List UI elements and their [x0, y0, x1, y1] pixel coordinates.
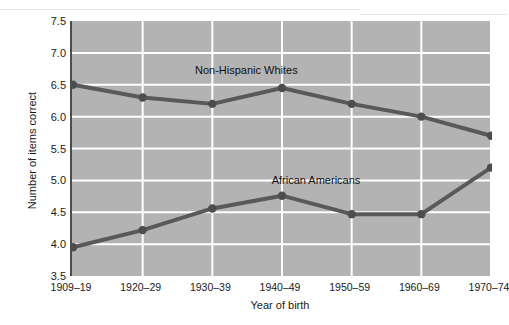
series-label-2: African Americans	[272, 174, 361, 186]
data-point-marker	[347, 210, 355, 218]
x-axis-tick-label: 1970–74	[469, 280, 509, 294]
scan-artifact-line	[360, 14, 508, 15]
series-label-1: Non-Hispanic Whites	[195, 64, 298, 76]
y-axis-tick-label: 7.0	[38, 47, 66, 59]
y-axis-tick-label: 5.5	[38, 143, 66, 155]
data-point-marker	[347, 100, 355, 108]
data-point-marker	[138, 93, 146, 101]
plot-area	[70, 21, 492, 276]
x-axis-tick-label: 1920–29	[120, 280, 161, 294]
x-axis-tick-label: 1950–59	[329, 280, 370, 294]
y-axis-tick-label: 5.0	[38, 174, 66, 186]
plot-svg	[72, 21, 492, 276]
x-axis-title: Year of birth	[70, 299, 490, 311]
x-axis-tick-label: 1940–49	[260, 280, 301, 294]
y-axis-tick-label: 6.0	[38, 111, 66, 123]
x-axis-tick-labels: 1909–191920–291930–391940–491950–591960–…	[0, 280, 508, 296]
data-point-marker	[208, 204, 216, 212]
data-point-marker	[417, 112, 425, 120]
gridlines	[72, 21, 492, 276]
data-point-marker	[138, 226, 146, 234]
y-axis-tick-label: 4.5	[38, 206, 66, 218]
data-point-marker	[72, 81, 77, 89]
data-point-marker	[278, 191, 286, 199]
x-axis-tick-label: 1960–69	[399, 280, 440, 294]
data-point-marker	[417, 210, 425, 218]
data-point-marker	[208, 100, 216, 108]
x-axis-tick-label: 1930–39	[190, 280, 231, 294]
y-axis-tick-labels: 7.57.06.56.05.55.04.54.03.5	[36, 0, 66, 325]
y-axis-tick-label: 6.5	[38, 79, 66, 91]
y-axis-tick-label: 7.5	[38, 15, 66, 27]
y-axis-tick-label: 4.0	[38, 238, 66, 250]
data-point-marker	[278, 84, 286, 92]
x-axis-tick-label: 1909–19	[51, 280, 92, 294]
